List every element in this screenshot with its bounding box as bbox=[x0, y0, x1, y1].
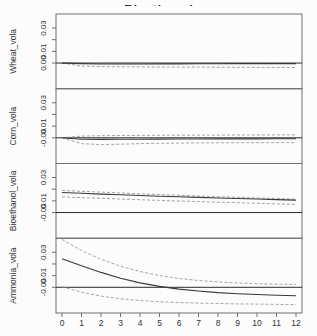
x-tick-label: 10 bbox=[252, 318, 262, 328]
y-tick-label: 0.01 bbox=[39, 43, 48, 59]
panel-box bbox=[56, 89, 302, 164]
y-tick-label: 0.03 bbox=[39, 244, 48, 260]
x-tick-label: 0 bbox=[60, 318, 65, 328]
y-tick-label: 0.01 bbox=[39, 267, 48, 283]
y-tick-label: 0.03 bbox=[39, 20, 48, 36]
ci_lower-line bbox=[62, 197, 296, 205]
plot-svg: 0.000.010.03Wheat_vola-0.000.010.03Corn_… bbox=[0, 0, 317, 336]
x-tick-label: 3 bbox=[118, 318, 123, 328]
x-tick-label: 4 bbox=[138, 318, 143, 328]
x-tick-label: 12 bbox=[291, 318, 301, 328]
panel-label: Ammonia_vola bbox=[8, 247, 18, 303]
panel-label: Wheat_vola bbox=[8, 29, 18, 74]
irf-figure: Bioethanol 0.000.010.03Wheat_vola-0.000.… bbox=[0, 0, 317, 336]
panel-label: Corn_vola bbox=[8, 106, 18, 145]
y-tick-label: 0.01 bbox=[39, 118, 48, 134]
x-tick-label: 8 bbox=[216, 318, 221, 328]
y-tick-label: 0.03 bbox=[39, 169, 48, 185]
panel-label: Bioethanol_vola bbox=[8, 170, 18, 231]
x-tick-label: 1 bbox=[79, 318, 84, 328]
y-tick-label: 0.01 bbox=[39, 193, 48, 209]
x-tick-label: 5 bbox=[157, 318, 162, 328]
y-tick-label: 0.03 bbox=[39, 94, 48, 110]
x-tick-label: 6 bbox=[177, 318, 182, 328]
x-tick-label: 9 bbox=[235, 318, 240, 328]
response-line bbox=[62, 193, 296, 201]
x-tick-label: 2 bbox=[99, 318, 104, 328]
x-tick-label: 11 bbox=[272, 318, 281, 328]
panel-box bbox=[56, 14, 302, 89]
x-tick-label: 7 bbox=[196, 318, 201, 328]
ci_upper-line bbox=[62, 239, 296, 284]
panel-box bbox=[56, 238, 302, 313]
response-line bbox=[62, 259, 296, 296]
